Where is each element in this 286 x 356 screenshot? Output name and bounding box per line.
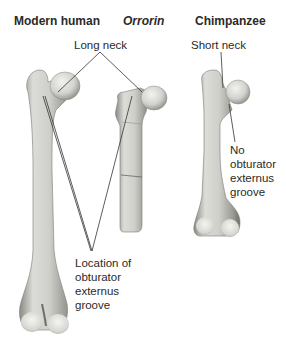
femur-illustrations (0, 0, 286, 356)
chimpanzee-femur (194, 70, 250, 237)
modern-human-femur (19, 70, 80, 334)
orrorin-femur (115, 86, 167, 232)
